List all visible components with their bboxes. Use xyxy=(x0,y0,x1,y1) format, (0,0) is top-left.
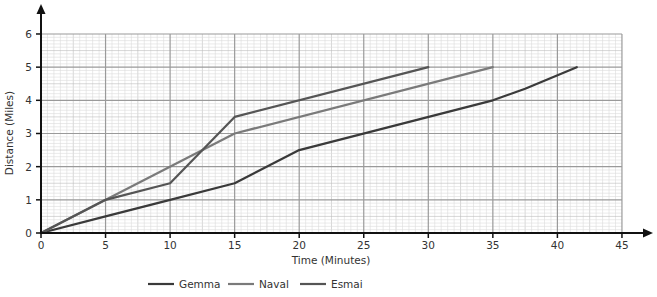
y-tick-label: 3 xyxy=(25,127,32,139)
x-tick-label: 0 xyxy=(38,239,45,251)
x-tick-label: 25 xyxy=(357,239,370,251)
x-tick-label: 45 xyxy=(615,239,628,251)
axes xyxy=(37,4,654,238)
legend: GemmaNavalEsmai xyxy=(148,278,363,290)
legend-label-gemma: Gemma xyxy=(179,278,221,290)
x-tick-label: 40 xyxy=(551,239,564,251)
legend-label-naval: Naval xyxy=(259,278,289,290)
x-tick-label: 15 xyxy=(228,239,241,251)
x-tick-label: 35 xyxy=(486,239,499,251)
x-axis-label: Time (Minutes) xyxy=(291,254,371,266)
x-tick-label: 30 xyxy=(422,239,435,251)
y-tick-label: 1 xyxy=(25,194,32,206)
y-axis-label: Distance (Miles) xyxy=(3,91,15,175)
legend-label-esmai: Esmai xyxy=(331,278,363,290)
x-tick-label: 10 xyxy=(163,239,176,251)
y-tick-label: 5 xyxy=(25,61,32,73)
y-tick-label: 0 xyxy=(25,227,32,239)
x-tick-label: 20 xyxy=(293,239,306,251)
y-tick-label: 6 xyxy=(25,28,32,40)
chart-canvas: 0510152025303540450123456 Time (Minutes)… xyxy=(0,0,657,297)
y-tick-label: 4 xyxy=(25,94,32,106)
distance-time-chart: 0510152025303540450123456 Time (Minutes)… xyxy=(0,0,657,297)
y-tick-label: 2 xyxy=(25,161,32,173)
x-tick-label: 5 xyxy=(102,239,109,251)
